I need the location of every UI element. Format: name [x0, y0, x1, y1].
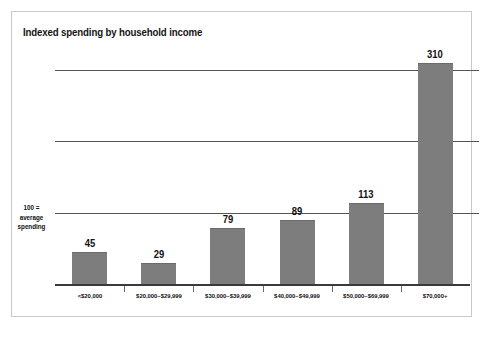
- category-label: $30,000–$39,999: [196, 292, 261, 299]
- x-axis-line: [55, 284, 470, 286]
- chart-figure: Indexed spending by household income 100…: [0, 0, 488, 340]
- bar-value-label: 113: [339, 188, 393, 200]
- x-axis-tick: [332, 286, 333, 292]
- bar-value-label: 45: [63, 237, 117, 249]
- category-label: <$20,000: [57, 292, 122, 299]
- category-label: $50,000–$69,999: [334, 292, 399, 299]
- category-label: $40,000–$49,999: [265, 292, 330, 299]
- bar-value-label: 89: [270, 205, 324, 217]
- x-axis-tick: [193, 286, 194, 292]
- bar: [280, 220, 315, 284]
- category-label: $70,000+: [403, 292, 468, 299]
- gridline-200: [55, 141, 470, 142]
- bar-value-label: 310: [408, 48, 462, 60]
- category-label: $20,000–$29,999: [126, 292, 191, 299]
- gridline-tick-200: [470, 141, 479, 142]
- gridline-tick-100: [470, 213, 479, 214]
- bar: [210, 228, 245, 284]
- x-axis-tick: [401, 286, 402, 292]
- bar: [349, 203, 384, 284]
- bar: [418, 63, 453, 284]
- bar-value-label: 79: [201, 213, 255, 225]
- x-axis-tick: [124, 286, 125, 292]
- bar-value-label: 29: [132, 248, 186, 260]
- gridline-100: [55, 213, 470, 214]
- bar: [141, 263, 176, 284]
- gridline-tick-300: [470, 70, 479, 71]
- x-axis-tick: [263, 286, 264, 292]
- plot-area: 45<$20,00029$20,000–$29,99979$30,000–$39…: [0, 0, 488, 340]
- gridline-300: [55, 70, 470, 71]
- bar: [72, 252, 107, 284]
